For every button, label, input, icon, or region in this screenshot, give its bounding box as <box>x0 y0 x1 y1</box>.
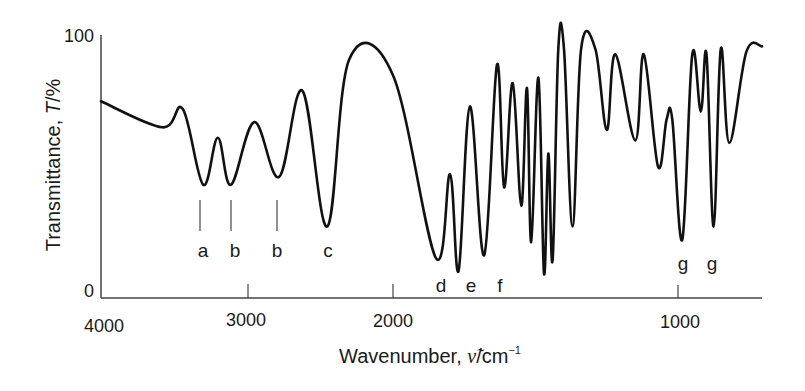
x-tick-label-2000: 2000 <box>373 311 413 331</box>
peak-label-g2: g <box>707 253 718 274</box>
x-tick-label-3000: 3000 <box>226 310 266 330</box>
y-tick-label-100: 100 <box>64 26 94 46</box>
peak-label-g1: g <box>678 253 689 274</box>
y-axis-title: Transmittance, T/% <box>42 78 64 251</box>
peak-label-e: e <box>466 275 477 296</box>
peak-label-c: c <box>323 240 333 261</box>
peak-label-b1: b <box>230 240 241 261</box>
peak-label-b2: b <box>272 240 283 261</box>
x-axis-title: Wavenumber, ν̃/cm−1 <box>339 344 521 367</box>
peak-label-f: f <box>497 275 503 296</box>
peak-label-a: a <box>198 240 209 261</box>
ir-spectrum-chart: 100 0 4000 3000 2000 1000 Transmittance,… <box>0 0 805 391</box>
peak-label-d: d <box>436 275 447 296</box>
y-tick-label-0: 0 <box>84 281 94 301</box>
x-tick-label-1000: 1000 <box>660 312 700 332</box>
x-tick-label-4000: 4000 <box>84 316 124 336</box>
spectrum-trace <box>101 23 762 275</box>
